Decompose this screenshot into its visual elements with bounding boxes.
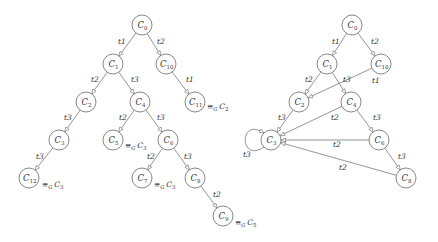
edge-label: t2 — [371, 37, 379, 46]
arrowhead-icon — [148, 165, 152, 170]
edge-C4-C6 — [357, 110, 373, 132]
edge-C6-C3 — [281, 138, 369, 142]
equivalence-C11: ≡GC2 — [207, 102, 229, 112]
node-C2: C2 — [76, 92, 96, 112]
edge-label: t3 — [131, 75, 139, 84]
node-C4: C4 — [130, 92, 150, 112]
edge-label: t2 — [305, 75, 313, 84]
arrowhead-icon — [332, 51, 336, 56]
node-C3: C3 — [261, 130, 281, 150]
arrowhead-icon — [259, 129, 264, 133]
equivalence-C7: ≡GC3 — [154, 180, 176, 190]
self-loop-label: t3 — [243, 150, 251, 159]
edge-label: t1 — [332, 37, 340, 46]
arrowhead-icon — [130, 89, 134, 94]
arrowhead-icon — [185, 165, 189, 170]
labels-layer: t1t2t2t3t1t3t2t3t3t2t3t2≡GC2≡GC3≡GC3≡GC3… — [36, 37, 406, 228]
edge-label: t3 — [184, 152, 192, 161]
arrowhead-icon — [308, 94, 313, 98]
arrowhead-icon — [157, 51, 161, 56]
node-C3: C3 — [49, 130, 69, 150]
edge-label: t3 — [36, 152, 44, 161]
arrowhead-icon — [277, 127, 281, 132]
node-C4: C4 — [341, 92, 361, 112]
arrowhead-icon — [281, 138, 286, 142]
edge-label: t2 — [157, 37, 165, 46]
edge-label: t3 — [373, 113, 381, 122]
edge-label: t2 — [339, 163, 347, 172]
edge-label: t3 — [157, 113, 165, 122]
equivalence-C9: ≡GC5 — [235, 218, 257, 228]
node-C5: C5 — [103, 130, 123, 150]
node-C10: C10 — [156, 54, 176, 74]
node-C2: C2 — [289, 92, 309, 112]
arrowhead-icon — [213, 203, 217, 208]
node-C11: C11 — [185, 92, 205, 112]
arrowhead-icon — [396, 165, 400, 170]
edge-C10-C2 — [308, 68, 372, 98]
node-C10: C10 — [371, 54, 391, 74]
edges-layer — [35, 33, 400, 208]
node-C0: C0 — [342, 15, 362, 35]
arrowhead-icon — [281, 142, 286, 146]
edge-label: t3 — [343, 75, 351, 84]
node-C7: C7 — [132, 168, 152, 188]
arrowhead-icon — [65, 127, 69, 132]
arrowhead-icon — [305, 89, 309, 94]
node-C0: C0 — [132, 15, 152, 35]
arrowhead-icon — [185, 89, 189, 94]
edge-label: t2 — [213, 190, 221, 199]
edge-label: t3 — [398, 152, 406, 161]
edge-label: t2 — [331, 113, 339, 122]
edge-label: t3 — [64, 113, 72, 122]
edge-label: t1 — [186, 75, 194, 84]
arrowhead-icon — [342, 89, 346, 94]
node-C9: C9 — [213, 206, 233, 226]
edge-label: t2 — [91, 75, 99, 84]
arrowhead-icon — [369, 127, 373, 132]
edge-label: t2 — [147, 152, 155, 161]
arrowhead-icon — [158, 127, 162, 132]
edge-label: t1 — [372, 76, 380, 85]
arrowhead-icon — [371, 51, 375, 56]
edge-label: t3 — [278, 113, 286, 122]
edge-label: t2 — [119, 113, 127, 122]
equivalence-C5: ≡GC3 — [125, 141, 147, 151]
arrowhead-icon — [280, 132, 285, 136]
equivalence-C12: ≡GC3 — [42, 180, 64, 190]
arrowhead-icon — [92, 89, 96, 94]
node-C8: C8 — [396, 168, 416, 188]
diagram-canvas: C0C1C10C2C4C11C3C5C6C12C7C8C9C0C1C10C2C4… — [0, 0, 438, 242]
edge-label: t2 — [333, 140, 341, 149]
arrowhead-icon — [119, 51, 123, 56]
node-C1: C1 — [103, 54, 123, 74]
node-C12: C12 — [19, 168, 39, 188]
edge-line — [308, 68, 372, 98]
arrowhead-icon — [119, 127, 123, 132]
node-C6: C6 — [369, 130, 389, 150]
node-C1: C1 — [317, 54, 337, 74]
node-C6: C6 — [158, 130, 178, 150]
edge-label: t1 — [118, 37, 126, 46]
node-C8: C8 — [185, 168, 205, 188]
